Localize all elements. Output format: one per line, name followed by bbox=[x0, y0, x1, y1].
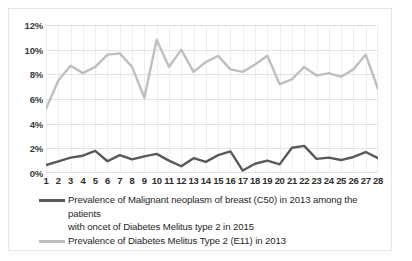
x-axis-tick-label: 21 bbox=[287, 175, 297, 187]
x-axis-tick-label: 4 bbox=[80, 175, 85, 187]
x-axis-tick-label: 17 bbox=[238, 175, 248, 187]
x-axis: 1234567891011121314151617181920212223242… bbox=[46, 175, 378, 189]
legend-label-breast-cancer: Prevalence of Malignant neoplasm of brea… bbox=[68, 193, 387, 234]
y-axis-tick-label: 10% bbox=[13, 45, 43, 54]
x-axis-tick-label: 18 bbox=[250, 175, 260, 187]
x-axis-tick-label: 7 bbox=[117, 175, 122, 187]
x-axis-tick-label: 1 bbox=[44, 175, 49, 187]
legend-swatch-light-icon bbox=[39, 240, 65, 243]
y-axis-tick-label: 6% bbox=[13, 95, 43, 104]
legend-label-diabetes: Prevalence of Diabetes Melitus Type 2 (E… bbox=[68, 234, 286, 248]
x-axis-tick-label: 28 bbox=[373, 175, 383, 187]
x-axis-tick-label: 20 bbox=[275, 175, 285, 187]
legend-label-line2: with oncet of Diabetes Melitus type 2 in… bbox=[68, 220, 387, 234]
series-line bbox=[46, 146, 378, 171]
y-axis: 12%10%8%6%4%2%0% bbox=[13, 25, 43, 173]
x-axis-tick-label: 26 bbox=[348, 175, 358, 187]
x-axis-tick-label: 22 bbox=[299, 175, 309, 187]
x-axis-tick-label: 3 bbox=[68, 175, 73, 187]
legend-item-breast-cancer[interactable]: Prevalence of Malignant neoplasm of brea… bbox=[39, 193, 387, 234]
x-axis-tick-label: 13 bbox=[189, 175, 199, 187]
x-axis-tick-label: 16 bbox=[225, 175, 235, 187]
legend-swatch-dark-icon bbox=[39, 199, 65, 202]
x-axis-tick-label: 23 bbox=[312, 175, 322, 187]
x-axis-tick-label: 19 bbox=[262, 175, 272, 187]
x-axis-tick-label: 9 bbox=[142, 175, 147, 187]
y-axis-tick-label: 2% bbox=[13, 144, 43, 153]
series-line bbox=[46, 40, 378, 109]
x-axis-tick-label: 27 bbox=[361, 175, 371, 187]
chart-legend: Prevalence of Malignant neoplasm of brea… bbox=[39, 193, 387, 247]
series-lines bbox=[46, 25, 378, 173]
legend-label-line1: Prevalence of Malignant neoplasm of brea… bbox=[68, 194, 357, 219]
x-axis-tick-label: 25 bbox=[336, 175, 346, 187]
x-axis-tick-label: 14 bbox=[201, 175, 211, 187]
x-axis-tick-label: 5 bbox=[93, 175, 98, 187]
x-axis-tick-label: 8 bbox=[130, 175, 135, 187]
x-axis-tick-label: 12 bbox=[176, 175, 186, 187]
x-axis-tick-label: 11 bbox=[164, 175, 173, 187]
legend-item-diabetes[interactable]: Prevalence of Diabetes Melitus Type 2 (E… bbox=[39, 234, 387, 248]
x-axis-tick-label: 6 bbox=[105, 175, 110, 187]
x-axis-tick-label: 24 bbox=[324, 175, 334, 187]
y-axis-tick-label: 4% bbox=[13, 119, 43, 128]
x-axis-tick-label: 2 bbox=[56, 175, 61, 187]
plot-area bbox=[46, 25, 378, 173]
x-axis-tick-label: 15 bbox=[213, 175, 223, 187]
y-axis-tick-label: 8% bbox=[13, 70, 43, 79]
chart-frame: 12%10%8%6%4%2%0% 12345678910111213141516… bbox=[8, 8, 392, 251]
y-axis-tick-label: 12% bbox=[13, 21, 43, 30]
y-axis-tick-label: 0% bbox=[13, 169, 43, 178]
x-axis-tick-label: 10 bbox=[152, 175, 162, 187]
chart-plot-wrapper: 12%10%8%6%4%2%0% 12345678910111213141516… bbox=[9, 9, 393, 252]
